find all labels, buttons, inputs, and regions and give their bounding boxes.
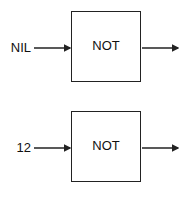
not-gate-box: NOT: [71, 11, 141, 82]
not-gate-diagram-2: 12 NOT: [0, 100, 193, 197]
not-gate-diagram-1: NIL NOT: [0, 0, 193, 98]
gate-label: NOT: [72, 38, 140, 53]
gate-label: NOT: [72, 138, 140, 153]
not-gate-box: NOT: [71, 111, 141, 182]
